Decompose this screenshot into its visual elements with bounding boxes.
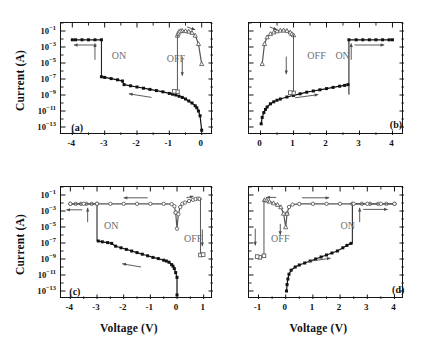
x-tick-label: 0 bbox=[162, 302, 190, 312]
x-tick-label: -2 bbox=[109, 302, 137, 312]
x-tick-label: 3 bbox=[352, 302, 380, 312]
x-tick-label: 3 bbox=[344, 138, 372, 148]
y-tick-label: 10−13 bbox=[20, 284, 56, 296]
plot-area-a bbox=[60, 22, 212, 134]
series-set-sweep-low-state bbox=[98, 241, 177, 295]
y-tick-label: 10−1 bbox=[20, 188, 56, 200]
state-label-on: ON bbox=[104, 220, 118, 231]
panel-tag-a: (a) bbox=[71, 122, 83, 133]
y-tick-label: 10−13 bbox=[20, 120, 56, 132]
x-tick-label: -4 bbox=[55, 302, 83, 312]
state-label-off: OFF bbox=[167, 53, 185, 64]
x-tick-label: 2 bbox=[325, 302, 353, 312]
figure-iv-characteristics: ONOFF(a)-4-3-2-1010−110−310−510−710−910−… bbox=[0, 0, 434, 360]
series-set-sweep-low-state bbox=[261, 85, 348, 124]
panel-tag-c: (c) bbox=[69, 286, 80, 297]
x-axis-label: Voltage (V) bbox=[100, 322, 158, 334]
plot-area-b bbox=[248, 22, 403, 134]
state-label-on: ON bbox=[335, 50, 349, 61]
panel-tag-b: (b) bbox=[390, 119, 402, 130]
x-tick-label: -4 bbox=[57, 138, 85, 148]
state-label-on: ON bbox=[340, 220, 354, 231]
x-tick-label: -1 bbox=[135, 302, 163, 312]
x-axis-label: Voltage (V) bbox=[290, 322, 348, 334]
series-set-sweep-low-state bbox=[101, 77, 201, 130]
x-tick-label: -3 bbox=[90, 138, 118, 148]
state-label-off: OFF bbox=[271, 233, 289, 244]
state-label-off: OFF bbox=[184, 233, 202, 244]
x-tick-label: 0 bbox=[271, 302, 299, 312]
x-tick-label: 1 bbox=[279, 138, 307, 148]
x-tick-label: 4 bbox=[377, 138, 405, 148]
curve-layer bbox=[249, 23, 404, 135]
x-tick-label: -2 bbox=[122, 138, 150, 148]
y-tick-label: 10−1 bbox=[20, 24, 56, 36]
panel-tag-d: (d) bbox=[392, 284, 404, 295]
x-tick-label: 0 bbox=[187, 138, 215, 148]
x-tick-label: -1 bbox=[154, 138, 182, 148]
curve-layer bbox=[61, 23, 213, 135]
state-label-on: ON bbox=[112, 50, 126, 61]
x-tick-label: -3 bbox=[82, 302, 110, 312]
y-axis-label: Current (A) bbox=[14, 50, 26, 111]
y-axis-label: Current (A) bbox=[14, 214, 26, 275]
x-tick-label: 0 bbox=[246, 138, 274, 148]
x-tick-label: 1 bbox=[298, 302, 326, 312]
x-tick-label: -1 bbox=[244, 302, 272, 312]
x-tick-label: 2 bbox=[312, 138, 340, 148]
x-tick-label: 4 bbox=[379, 302, 407, 312]
state-label-off: OFF bbox=[307, 50, 325, 61]
x-tick-label: 1 bbox=[189, 302, 217, 312]
